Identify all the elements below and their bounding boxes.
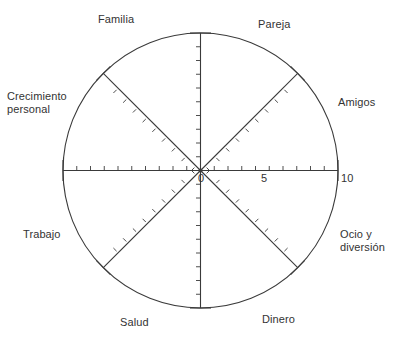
axis-diagonal-ne [201,66,305,170]
axis-diagonal-se [201,170,305,274]
wheel-of-life-diagram: Familia Pareja Amigos Ocio y diversión D… [0,0,394,342]
sector-label-amigos: Amigos [338,96,375,109]
axis-tick-label-10: 10 [341,172,353,184]
sector-label-salud: Salud [120,316,149,329]
sector-label-familia: Familia [98,13,134,26]
axis-tick-label-0: 0 [198,172,204,184]
axis-diagonal-sw [96,170,200,274]
sector-label-pareja: Pareja [258,18,290,31]
sector-label-dinero: Dinero [262,313,295,326]
axis-diagonal-nw [96,66,200,170]
sector-label-ocio-y-diversion: Ocio y diversión [340,228,385,253]
axis-tick-label-5: 5 [261,172,267,184]
sector-label-trabajo: Trabajo [23,228,61,241]
wheel-graphic [0,0,394,342]
sector-label-crecimiento-personal: Crecimiento personal [7,90,67,115]
